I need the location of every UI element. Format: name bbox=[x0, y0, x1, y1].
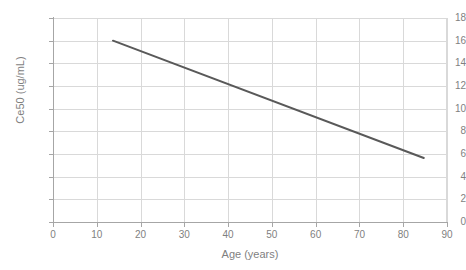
y-axis-line bbox=[53, 17, 54, 223]
y-tick-label: 2 bbox=[422, 193, 466, 204]
y-tick-mark bbox=[49, 41, 53, 42]
gridline-vertical bbox=[359, 18, 360, 222]
gridline-horizontal bbox=[53, 109, 447, 110]
gridline-horizontal bbox=[53, 86, 447, 87]
gridline-vertical bbox=[272, 18, 273, 222]
x-tick-mark bbox=[447, 223, 448, 227]
chart-screenshot: 024681012141618 0102030405060708090 Ce50… bbox=[0, 0, 466, 270]
y-tick-label: 4 bbox=[422, 171, 466, 182]
x-axis-line bbox=[53, 222, 448, 223]
x-tick-label: 80 bbox=[388, 229, 418, 240]
gridline-horizontal bbox=[53, 199, 447, 200]
gridline-horizontal bbox=[53, 177, 447, 178]
y-tick-label: 0 bbox=[422, 216, 466, 227]
y-tick-label: 6 bbox=[422, 148, 466, 159]
x-tick-label: 10 bbox=[82, 229, 112, 240]
y-tick-label: 8 bbox=[422, 125, 466, 136]
x-tick-mark bbox=[403, 223, 404, 227]
gridline-vertical bbox=[316, 18, 317, 222]
x-axis-title: Age (years) bbox=[53, 248, 447, 260]
plot-area bbox=[53, 18, 447, 222]
x-tick-mark bbox=[141, 223, 142, 227]
x-tick-label: 20 bbox=[126, 229, 156, 240]
y-tick-label: 12 bbox=[422, 80, 466, 91]
x-tick-mark bbox=[97, 223, 98, 227]
y-tick-label: 18 bbox=[422, 12, 466, 23]
y-tick-label: 16 bbox=[422, 35, 466, 46]
y-tick-mark bbox=[49, 131, 53, 132]
y-tick-label: 10 bbox=[422, 103, 466, 114]
gridline-vertical bbox=[403, 18, 404, 222]
y-axis-title: Ce50 (ug/mL) bbox=[14, 20, 26, 160]
y-tick-mark bbox=[49, 177, 53, 178]
y-tick-mark bbox=[49, 154, 53, 155]
x-tick-mark bbox=[316, 223, 317, 227]
gridline-vertical bbox=[97, 18, 98, 222]
gridline-horizontal bbox=[53, 131, 447, 132]
y-tick-mark bbox=[49, 18, 53, 19]
gridline-vertical bbox=[228, 18, 229, 222]
x-tick-label: 60 bbox=[301, 229, 331, 240]
x-tick-label: 70 bbox=[344, 229, 374, 240]
x-tick-mark bbox=[184, 223, 185, 227]
y-tick-mark bbox=[49, 199, 53, 200]
x-tick-label: 0 bbox=[38, 229, 68, 240]
gridline-vertical bbox=[184, 18, 185, 222]
x-tick-mark bbox=[272, 223, 273, 227]
gridline-vertical bbox=[141, 18, 142, 222]
x-tick-mark bbox=[53, 223, 54, 227]
x-tick-label: 40 bbox=[213, 229, 243, 240]
x-tick-mark bbox=[228, 223, 229, 227]
x-tick-mark bbox=[359, 223, 360, 227]
gridline-vertical bbox=[447, 18, 448, 222]
gridline-horizontal bbox=[53, 18, 447, 19]
x-tick-label: 90 bbox=[432, 229, 462, 240]
gridline-horizontal bbox=[53, 41, 447, 42]
y-tick-mark bbox=[49, 63, 53, 64]
y-tick-mark bbox=[49, 86, 53, 87]
gridline-horizontal bbox=[53, 154, 447, 155]
y-tick-label: 14 bbox=[422, 57, 466, 68]
x-tick-label: 30 bbox=[169, 229, 199, 240]
x-tick-label: 50 bbox=[257, 229, 287, 240]
gridline-horizontal bbox=[53, 63, 447, 64]
y-tick-mark bbox=[49, 109, 53, 110]
